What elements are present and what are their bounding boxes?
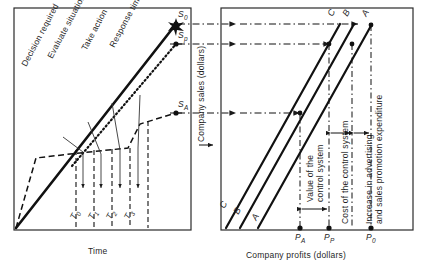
bracket-label-cost-of-control: Cost of the control system [340,121,350,224]
s0-sub: 0 [184,14,188,21]
bracket-label-increase-expenditure: Increase in advertising and sales promot… [365,94,385,224]
pa-sub: A [301,237,306,244]
sales-level-s0: S0 [178,9,188,21]
pp-sub: P [330,237,335,244]
left-panel-ylabel: Company sales (dollars) [196,46,206,142]
left-solid-sales-line [16,24,176,228]
left-annotation-leaders [63,95,140,188]
sales-level-sp: Sp [178,30,188,42]
marker-pa [297,225,302,230]
bracket-label-value-of-control: Value of the control system [306,144,326,202]
line-b [240,24,354,228]
figure-root: Decision required Evaluate situation Tak… [0,0,423,271]
sales-level-sa: SA [178,99,188,111]
sp-sub: p [184,35,188,42]
increase-line2: and sales promotion expenditure [374,94,384,224]
profit-marker-pa: PA [295,232,305,244]
sa-sub: A [184,104,189,111]
value-line2: control system [315,144,325,202]
increase-line1: Increase in advertising [364,134,374,224]
right-intersection-markers [298,23,374,116]
value-line1: Value of the [305,155,315,202]
left-panel-xlabel: Time [88,246,107,256]
profit-marker-pp: PP [324,232,334,244]
marker-pp [326,225,331,230]
right-profit-lines [226,24,372,228]
marker-p0 [368,225,373,230]
profit-marker-p0: P0 [366,232,376,244]
right-panel-xlabel: Company profits (dollars) [246,250,346,260]
left-dotted-sales-line [72,44,176,166]
p0-sub: 0 [372,237,376,244]
